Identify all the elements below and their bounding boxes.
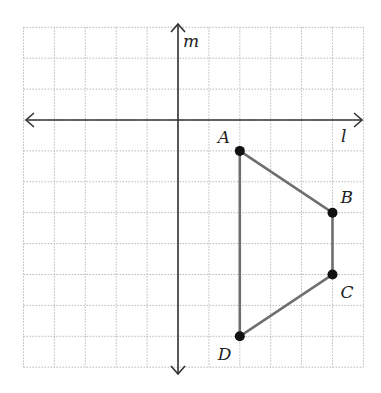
grid-lines <box>24 27 364 367</box>
coordinate-plane: m l A B C D <box>0 0 381 393</box>
vertex-label-c: C <box>341 282 354 302</box>
axis-label-m: m <box>183 31 199 51</box>
vertex-b <box>328 208 338 218</box>
axis-label-l: l <box>341 126 346 146</box>
vertex-a <box>235 146 245 156</box>
vertex-d <box>235 331 245 341</box>
vertex-c <box>328 270 338 280</box>
vertex-label-a: A <box>216 127 230 147</box>
vertex-label-b: B <box>340 187 354 207</box>
vertex-label-d: D <box>217 344 232 364</box>
